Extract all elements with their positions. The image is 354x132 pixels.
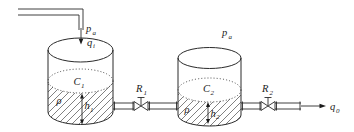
ambient-pressure-label-2: p a <box>221 27 233 41</box>
svg-text:R: R <box>261 83 269 94</box>
tank2-top-ellipse <box>178 48 241 69</box>
svg-text:p: p <box>221 27 227 38</box>
svg-text:i: i <box>93 42 95 50</box>
valve1 <box>134 98 148 111</box>
svg-text:q: q <box>87 37 92 48</box>
pipe-tank2-to-valve2 <box>241 102 261 111</box>
outflow-label: q 0 <box>330 101 340 115</box>
tank1-capacitance-label: C 1 <box>74 76 85 90</box>
two-tank-system-diagram: p a q i C 1 ρ h 1 R 1 p a C 2 ρ h 2 R 2 … <box>0 0 354 132</box>
inflow-arrow <box>79 28 84 45</box>
svg-text:ρ: ρ <box>56 95 62 106</box>
svg-text:1: 1 <box>81 82 85 90</box>
svg-text:h: h <box>211 108 216 119</box>
svg-text:0: 0 <box>336 107 340 115</box>
svg-text:2: 2 <box>270 89 274 97</box>
valve2-resistance-label: R 2 <box>261 83 274 97</box>
inlet-pipe <box>18 9 83 30</box>
svg-text:ρ: ρ <box>184 104 190 115</box>
pipe-tank1-to-valve1 <box>113 102 134 111</box>
svg-text:p: p <box>85 23 91 34</box>
valve2 <box>261 98 275 111</box>
pipe-valve1-to-tank2 <box>148 102 178 111</box>
diagram-canvas: p a q i C 1 ρ h 1 R 1 p a C 2 ρ h 2 R 2 … <box>0 0 354 132</box>
svg-text:h: h <box>85 100 90 111</box>
svg-text:a: a <box>229 33 233 41</box>
outflow-arrow <box>301 104 326 108</box>
outflow-pipe <box>275 102 301 111</box>
tank2-capacitance-label: C 2 <box>203 83 215 97</box>
svg-text:1: 1 <box>90 106 94 114</box>
ambient-pressure-label-1: p a <box>85 23 97 37</box>
tank2-density-label: ρ <box>184 104 190 115</box>
svg-text:1: 1 <box>144 89 148 97</box>
svg-text:2: 2 <box>211 89 215 97</box>
valve1-resistance-label: R 1 <box>135 83 147 97</box>
svg-text:q: q <box>330 101 335 112</box>
tank1-density-label: ρ <box>56 95 62 106</box>
svg-text:R: R <box>135 83 143 94</box>
svg-text:2: 2 <box>216 113 220 121</box>
svg-text:a: a <box>93 29 97 37</box>
